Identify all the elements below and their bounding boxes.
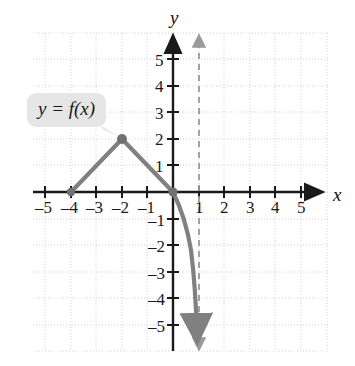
y-tick-label--2: –2 [148, 238, 165, 255]
x-tick-label-1: 1 [195, 199, 204, 216]
y-tick-label-5: 5 [155, 52, 164, 69]
y-tick-label--4: –4 [148, 291, 165, 308]
coordinate-plane [0, 0, 355, 366]
y-tick-label--5: –5 [148, 318, 165, 335]
function-graph-figure: y x –5 –4 –3 –2 –1 1 2 3 4 5 5 4 3 2 1 –… [0, 0, 355, 366]
y-tick-label-4: 4 [155, 78, 164, 95]
x-tick-label-5: 5 [297, 199, 306, 216]
function-asymptotic-branch [173, 192, 197, 336]
x-tick-label--4: –4 [61, 199, 78, 216]
point-marker-neg2-2 [117, 134, 127, 144]
y-tick-label-1: 1 [155, 158, 164, 175]
x-tick-label--5: –5 [35, 199, 52, 216]
callout-pointer [98, 124, 120, 137]
y-tick-label--1: –1 [148, 212, 165, 229]
x-tick-label--3: –3 [86, 199, 103, 216]
y-tick-label--3: –3 [148, 265, 165, 282]
y-axis-label: y [170, 8, 178, 27]
x-tick-label--2: –2 [112, 199, 129, 216]
point-marker-neg4-0 [67, 188, 75, 196]
y-tick-label-3: 3 [155, 105, 164, 122]
x-axis-label: x [333, 185, 341, 204]
x-tick-label-2: 2 [220, 199, 229, 216]
point-marker-0-0 [168, 187, 177, 196]
x-tick-label-4: 4 [271, 199, 280, 216]
x-tick-label-3: 3 [246, 199, 255, 216]
y-tick-label-2: 2 [155, 131, 164, 148]
function-label-callout: y = f(x) [27, 93, 106, 127]
